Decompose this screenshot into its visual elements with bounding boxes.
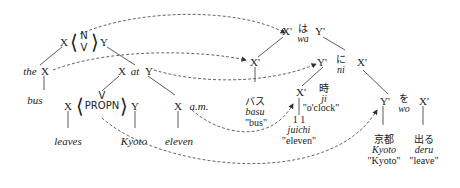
jp-roman-ni: ni	[337, 65, 345, 75]
jp-gloss-bus: "bus"	[245, 118, 267, 128]
jp-ni-right-node: X'	[357, 57, 367, 68]
right-angle-bracket-2: ⟩	[120, 96, 128, 116]
vp-right-node: Y	[131, 101, 139, 112]
left-angle-bracket-2: ⟨	[76, 96, 84, 116]
word-kyoto: Kyoto	[121, 136, 147, 147]
word-leaves: leaves	[54, 136, 81, 147]
pp-right-node: Y	[145, 66, 153, 77]
pp-left-node: X	[118, 66, 126, 77]
vp-left-node: X	[64, 101, 72, 112]
pos-n-label: N	[80, 31, 87, 41]
jp-roman-kyoto: Kyoto	[372, 145, 396, 155]
jp-gloss-leave: "leave"	[409, 156, 438, 166]
jp-wo-right-node: X'	[419, 96, 429, 107]
right-angle-bracket: ⟩	[91, 32, 99, 52]
jp-top-left-node: X'	[282, 26, 292, 37]
jp-roman-wo: wo	[398, 104, 410, 114]
word-at: at	[131, 66, 140, 77]
word-bus: bus	[27, 95, 42, 106]
jp-roman-deru: deru	[415, 145, 433, 155]
syntax-alignment-diagram: X N V ⟨ ⟩ Y the X bus X at Y V X ⟨ PROPN…	[0, 0, 460, 188]
root-right-node: Y	[100, 37, 108, 48]
jp-gloss-oclock: "o'clock"	[303, 103, 340, 113]
pos-propn-label: PROPN	[85, 101, 119, 111]
time-node: X	[174, 101, 182, 112]
word-eleven: eleven	[165, 136, 193, 147]
jp-subject-node: X'	[250, 57, 260, 68]
root-left-node: X	[60, 37, 68, 48]
jp-roman-wa: wa	[297, 34, 309, 44]
jp-gloss-eleven: "eleven"	[282, 136, 316, 146]
jp-ni-left-node: Y'	[317, 57, 327, 68]
jp-wo-left-node: Y'	[380, 96, 390, 107]
jp-top-right-node: Y'	[315, 26, 325, 37]
word-the: the	[23, 66, 36, 77]
jp-roman-basu: basu	[246, 107, 265, 117]
pos-v-label: V	[81, 43, 88, 53]
jp-gloss-kyoto: "Kyoto"	[367, 156, 400, 166]
jp-roman-juichi: juichi	[288, 125, 311, 135]
subject-node: X	[41, 66, 49, 77]
word-am: a.m.	[190, 101, 209, 112]
jp-time-node: X'	[296, 87, 306, 98]
left-angle-bracket: ⟨	[70, 32, 78, 52]
